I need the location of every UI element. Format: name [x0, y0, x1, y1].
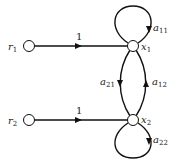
edge-x1-x2: [117, 50, 130, 116]
gain-a11: a11: [153, 22, 168, 35]
arrow-icon: [75, 117, 82, 123]
gain-a22: a22: [153, 134, 168, 147]
self-loop-x1: [115, 6, 152, 43]
gain-r1-x1: 1: [76, 31, 82, 42]
edge-x2-x1: [136, 50, 149, 116]
label-r1: r1: [8, 41, 17, 54]
label-x1: x1: [141, 41, 151, 54]
gain-a12: a12: [152, 76, 167, 89]
arrow-icon: [75, 43, 82, 49]
arrow-icon: [117, 80, 123, 87]
gain-a21: a21: [100, 76, 115, 89]
gain-r2-x2: 1: [76, 105, 82, 116]
signal-flow-graph: r1 r2 x1 x2 1 1 a11 a22 a21 a12: [0, 0, 179, 162]
node-r1: [24, 41, 35, 52]
label-x2: x2: [141, 114, 151, 127]
arrow-icon: [143, 80, 149, 87]
edge-r1-x1: [34, 43, 128, 49]
node-x2: [128, 115, 139, 126]
node-x1: [128, 41, 139, 52]
edge-r2-x2: [34, 117, 128, 123]
self-loop-x2: [115, 123, 152, 158]
label-r2: r2: [8, 115, 17, 128]
arrow-icon: [146, 26, 152, 33]
node-r2: [24, 115, 35, 126]
